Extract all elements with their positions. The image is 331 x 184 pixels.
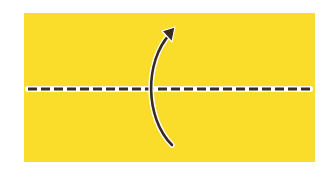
fold-diagram-overlay <box>0 0 331 184</box>
